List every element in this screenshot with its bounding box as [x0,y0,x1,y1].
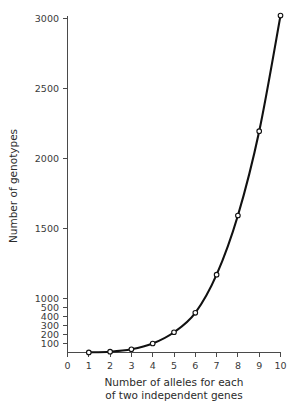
x-tick-label-3: 3 [128,360,134,371]
data-point-3 [129,347,134,352]
chart-canvas: 3000 2500 2000 1500 1000 500 400 300 200… [0,0,298,415]
y-tick-label-1500: 1500 [35,223,59,234]
x-axis-title-line1: Number of alleles for each [105,376,244,388]
x-tick-label-1: 1 [86,360,92,371]
y-axis-title: Number of genotypes [7,129,19,243]
y-tick-label-2000: 2000 [35,153,59,164]
x-tick-label-9: 9 [256,360,262,371]
data-point-4 [150,341,155,346]
genotype-curve [89,16,281,353]
data-point-7 [214,272,219,277]
x-axis-title-line2: of two independent genes [105,389,242,401]
x-axis-tick-labels: 0 1 2 3 4 5 6 7 8 9 10 [64,360,286,371]
data-point-6 [193,311,198,316]
data-point-10 [278,13,283,18]
chart-figure: 3000 2500 2000 1500 1000 500 400 300 200… [0,0,298,415]
x-tick-label-10: 10 [274,360,286,371]
x-tick-label-0: 0 [64,360,70,371]
data-point-1 [87,350,92,355]
y-axis-ticks [63,19,68,344]
data-point-9 [257,129,262,134]
data-point-markers [87,13,283,354]
data-point-8 [236,213,241,218]
x-tick-label-7: 7 [214,360,220,371]
x-tick-label-4: 4 [150,360,156,371]
data-point-2 [108,349,113,354]
x-tick-label-6: 6 [192,360,198,371]
y-tick-label-2500: 2500 [35,83,59,94]
x-tick-label-8: 8 [235,360,241,371]
data-point-5 [172,330,177,335]
y-axis-tick-labels: 3000 2500 2000 1500 1000 500 400 300 200… [35,13,59,349]
x-tick-label-2: 2 [107,360,113,371]
y-tick-label-100: 100 [41,338,59,349]
y-tick-label-3000: 3000 [35,13,59,24]
x-tick-label-5: 5 [171,360,177,371]
